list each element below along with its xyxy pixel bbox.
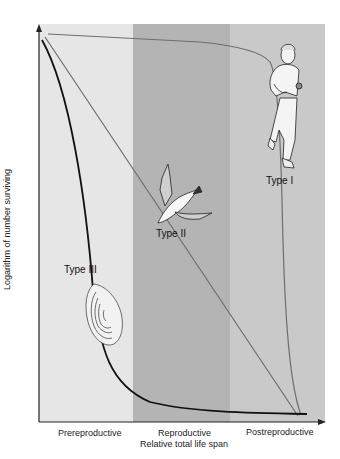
zone-label-postreproductive: Postreproductive — [246, 427, 314, 437]
type2-label: Type II — [156, 228, 186, 239]
zone-reproductive — [133, 24, 230, 422]
x-axis-label: Relative total life span — [140, 439, 228, 449]
y-axis-label: Logarithm of number surviving — [2, 169, 12, 290]
zone-label-prereproductive: Prereproductive — [58, 428, 122, 438]
type1-label: Type I — [266, 175, 293, 186]
zone-label-reproductive: Reproductive — [158, 428, 211, 438]
type3-label: Type III — [64, 264, 97, 275]
